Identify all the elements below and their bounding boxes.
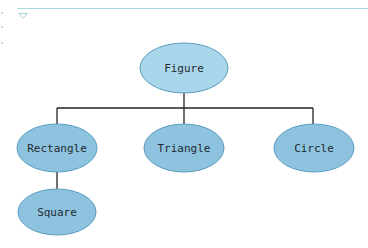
node-label-triangle: Triangle: [158, 142, 211, 155]
node-label-figure: Figure: [164, 62, 204, 75]
node-triangle[interactable]: Triangle: [144, 124, 224, 172]
node-label-circle: Circle: [294, 142, 334, 155]
node-square[interactable]: Square: [18, 189, 96, 235]
hierarchy-diagram: Figure Rectangle Triangle Circle Square: [0, 0, 368, 248]
node-figure[interactable]: Figure: [140, 43, 228, 93]
node-label-rectangle: Rectangle: [27, 142, 87, 155]
node-label-square: Square: [37, 206, 77, 219]
node-circle[interactable]: Circle: [274, 124, 354, 172]
node-rectangle[interactable]: Rectangle: [17, 124, 97, 172]
